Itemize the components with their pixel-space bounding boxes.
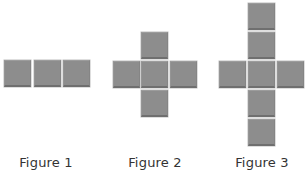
figure-3-caption: Figure 3 (222, 155, 302, 171)
figure-3-tile (248, 119, 275, 146)
figure-1-tile (63, 60, 90, 87)
figure-3-tile (248, 32, 275, 59)
figure-3-tile (248, 3, 275, 30)
figure-2-tile (113, 61, 140, 88)
figure-3-tile (219, 61, 246, 88)
figure-1-caption: Figure 1 (6, 155, 86, 171)
figure-3-tile (248, 90, 275, 117)
figure-3-tile (248, 61, 275, 88)
figure-3-tile (277, 61, 304, 88)
figure-2-tile (141, 90, 168, 117)
figure-2-tile (141, 61, 168, 88)
figure-2-caption: Figure 2 (115, 155, 195, 171)
figure-1-tile (4, 60, 31, 87)
figure-2-tile (170, 61, 197, 88)
figure-2-tile (141, 32, 168, 59)
tile-figures-diagram: Figure 1 Figure 2 Figure 3 (0, 0, 305, 183)
figure-1-tile (34, 60, 61, 87)
